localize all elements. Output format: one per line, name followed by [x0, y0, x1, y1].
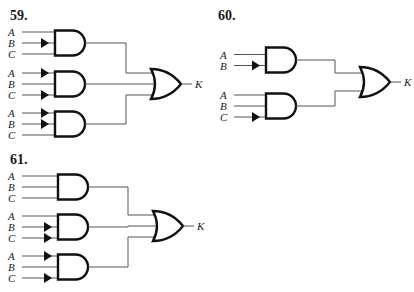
input-label-B: B [220, 60, 227, 72]
output-label: K [194, 78, 203, 90]
gate-output-wire [296, 91, 364, 106]
and-gate [58, 255, 88, 280]
circuit-59: ABCABCABCK [7, 26, 203, 141]
gate-output-wire [88, 187, 157, 215]
or-gate [360, 67, 390, 97]
invert-arrow-icon [44, 273, 52, 283]
invert-arrow-icon [41, 68, 49, 78]
and-gate [266, 48, 296, 73]
input-label-C: C [8, 48, 16, 60]
invert-arrow-icon [41, 90, 49, 100]
and-gate [55, 31, 85, 56]
input-label-C: C [8, 129, 16, 141]
invert-arrow-icon [44, 233, 52, 243]
invert-arrow-icon [252, 61, 260, 71]
and-gate [55, 112, 85, 137]
gate-output-wire [296, 60, 364, 73]
invert-arrow-icon [44, 251, 52, 261]
gate-output-wire [85, 95, 155, 124]
and-gate [266, 94, 296, 119]
output-label: K [196, 220, 205, 232]
invert-arrow-icon [44, 222, 52, 232]
gate-output-wire [88, 226, 157, 227]
invert-arrow-icon [252, 112, 260, 122]
output-label: K [403, 76, 412, 88]
invert-arrow-icon [41, 38, 49, 48]
or-gate [151, 69, 181, 99]
input-label-C: C [8, 232, 16, 244]
gate-output-wire [85, 43, 155, 73]
gate-output-wire [88, 237, 157, 267]
input-label-C: C [8, 89, 16, 101]
and-gate [58, 175, 88, 200]
input-label-C: C [220, 111, 228, 123]
and-gate [55, 72, 85, 97]
input-label-C: C [8, 272, 16, 284]
input-label-C: C [8, 192, 16, 204]
circuit-60: ABABCK [219, 48, 412, 124]
invert-arrow-icon [41, 108, 49, 118]
or-gate [153, 211, 183, 241]
and-gate [58, 215, 88, 240]
invert-arrow-icon [41, 119, 49, 129]
logic-diagrams: ABCABCABCKABABCKABCABCABCK [0, 0, 414, 292]
circuit-61: ABCABCABCK [7, 170, 205, 284]
